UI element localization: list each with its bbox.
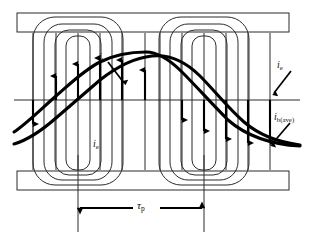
label-i-e-mid: ie <box>93 139 99 149</box>
top-core-bar <box>17 13 289 32</box>
winding-diagram-svg <box>0 0 314 237</box>
label-tau-p-subscript: p <box>141 204 145 213</box>
label-i-e-right: ie <box>277 60 283 70</box>
slot-center-lines <box>78 155 204 232</box>
figure-canvas: ib ie ib(ave) ie τp <box>0 0 314 237</box>
ie-right-pointer-arrow <box>274 71 291 93</box>
label-i-e-mid-subscript: e <box>96 143 99 150</box>
label-i-b-ave: ib(ave) <box>274 112 294 122</box>
label-tau-p: τp <box>137 200 145 211</box>
label-i-e-right-subscript: e <box>280 64 283 71</box>
label-i-b-ave-subscript: b(ave) <box>277 116 294 123</box>
label-i-b: ib <box>99 52 105 62</box>
bottom-core-bar <box>17 171 289 190</box>
label-i-b-subscript: b <box>102 56 105 63</box>
magnitude-arrows-up <box>56 58 145 100</box>
